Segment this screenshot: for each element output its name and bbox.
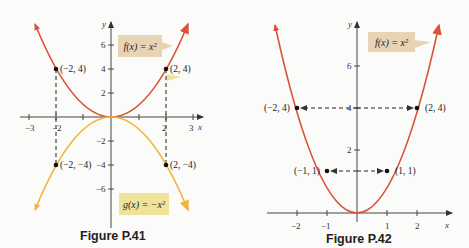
svg-text:x: x bbox=[444, 220, 449, 230]
figure-p41: −3 −2 2 3 x y 6 4 2 −2 −4 −6 (−2, 4) (2,… bbox=[20, 19, 203, 228]
svg-text:4: 4 bbox=[101, 64, 106, 74]
f-label: f(x) = x² bbox=[123, 41, 156, 52]
svg-text:2: 2 bbox=[162, 123, 167, 133]
svg-text:1: 1 bbox=[385, 221, 390, 231]
svg-text:4: 4 bbox=[347, 103, 352, 113]
svg-text:6: 6 bbox=[101, 40, 106, 50]
g-label: g(x) = −x² bbox=[123, 199, 165, 210]
svg-text:(1, 1): (1, 1) bbox=[395, 166, 416, 177]
svg-text:y: y bbox=[101, 19, 106, 29]
svg-text:−2: −2 bbox=[96, 136, 106, 146]
svg-text:−3: −3 bbox=[25, 123, 35, 133]
svg-text:(−2, 4): (−2, 4) bbox=[264, 103, 290, 114]
svg-text:(−1, 1): (−1, 1) bbox=[294, 166, 320, 177]
svg-text:x: x bbox=[197, 122, 202, 132]
svg-text:−6: −6 bbox=[96, 184, 106, 194]
svg-text:(2, −4): (2, −4) bbox=[170, 160, 196, 171]
svg-text:(2, 4): (2, 4) bbox=[170, 64, 191, 75]
caption-p41: Figure P.41 bbox=[80, 229, 146, 243]
svg-text:(−2, 4): (−2, 4) bbox=[60, 64, 86, 75]
svg-text:2: 2 bbox=[347, 145, 352, 155]
f-label-box-2: f(x) = x² bbox=[368, 32, 415, 52]
caption-p42: Figure P.42 bbox=[326, 232, 392, 246]
figure-p42: −2 −1 1 2 x y 6 4 2 (−2, 4) (2, 4) (−1, … bbox=[264, 19, 452, 231]
svg-text:−4: −4 bbox=[96, 160, 106, 170]
svg-text:2: 2 bbox=[415, 221, 420, 231]
svg-text:6: 6 bbox=[347, 61, 352, 71]
svg-text:2: 2 bbox=[101, 88, 106, 98]
f-label-box: f(x) = x² bbox=[118, 35, 162, 57]
svg-text:(2, 4): (2, 4) bbox=[425, 103, 446, 114]
svg-text:−1: −1 bbox=[321, 221, 331, 231]
f-label-2: f(x) = x² bbox=[375, 37, 408, 48]
svg-text:−2: −2 bbox=[52, 123, 62, 133]
g-label-box: g(x) = −x² bbox=[119, 193, 169, 215]
svg-text:(−2, −4): (−2, −4) bbox=[60, 160, 91, 171]
svg-text:3: 3 bbox=[189, 123, 194, 133]
svg-text:−2: −2 bbox=[291, 221, 301, 231]
svg-text:y: y bbox=[347, 19, 352, 29]
